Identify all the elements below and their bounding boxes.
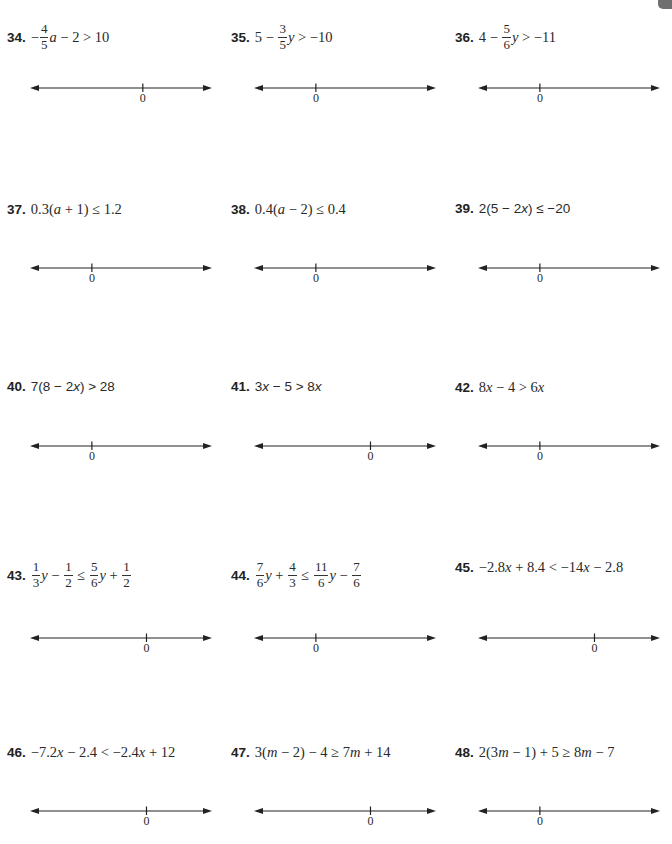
number-line-axis (478, 805, 660, 817)
left-arrow-icon (478, 443, 487, 449)
number-line[interactable]: 0 (478, 803, 660, 833)
number-line-axis (254, 440, 436, 452)
expression-text: 2(5 − 2 (479, 202, 521, 216)
problem-45: 45. −2.8x + 8.4 < −14x − 2.8 0 (448, 560, 672, 680)
problem-35: 35. 5 − 35y > −10 0 (224, 22, 448, 142)
problem-39: 39. 2(5 − 2x) ≤ −20 0 (448, 202, 672, 322)
problem-number: 42. (455, 381, 474, 395)
problem-label: 43. 13y − 12 ≤ 56y + 12 (7, 560, 132, 591)
expression-text: > −11 (518, 30, 556, 45)
inequality-expression: 8x − 4 > 6x (479, 380, 544, 395)
fraction: 56 (502, 22, 511, 53)
expression-text: + 14 (361, 745, 391, 760)
expression-text: − 2) ≤ 0.4 (285, 202, 346, 217)
number-line[interactable]: 0 (478, 630, 660, 660)
problem-48: 48. 2(3m − 1) + 5 ≥ 8m − 7 0 (448, 745, 672, 844)
variable: a (278, 202, 285, 217)
problem-36: 36. 4 − 56y > −11 0 (448, 22, 672, 142)
problem-42: 42. 8x − 4 > 6x 0 (448, 380, 672, 500)
right-arrow-icon (651, 265, 660, 271)
expression-text: 0.4( (255, 202, 278, 217)
right-arrow-icon (427, 85, 436, 91)
expression-text: + (272, 568, 287, 583)
inequality-expression: 13y − 12 ≤ 56y + 12 (31, 560, 132, 591)
left-arrow-icon (30, 443, 39, 449)
right-arrow-icon (651, 635, 660, 641)
expression-text: > −10 (294, 30, 332, 45)
left-arrow-icon (30, 265, 39, 271)
problem-number: 44. (231, 569, 250, 583)
problem-label: 35. 5 − 35y > −10 (231, 22, 333, 53)
problem-label: 39. 2(5 − 2x) ≤ −20 (455, 202, 570, 216)
number-line[interactable]: 0 (30, 803, 212, 833)
left-arrow-icon (30, 808, 39, 814)
zero-label: 0 (313, 271, 319, 286)
number-line-axis (478, 262, 660, 274)
fraction: 76 (256, 560, 265, 591)
page-corner-tab (658, 0, 672, 9)
left-arrow-icon (254, 635, 263, 641)
number-line[interactable]: 0 (478, 80, 660, 110)
problem-number: 43. (7, 569, 26, 583)
problem-number: 41. (231, 380, 250, 394)
problem-label: 48. 2(3m − 1) + 5 ≥ 8m − 7 (455, 745, 614, 760)
expression-text: 3( (255, 745, 267, 760)
problem-47: 47. 3(m − 2) − 4 ≥ 7m + 14 0 (224, 745, 448, 844)
problem-34: 34. −45a − 2 > 10 0 (0, 22, 224, 142)
left-arrow-icon (254, 265, 263, 271)
inequality-expression: 2(3m − 1) + 5 ≥ 8m − 7 (479, 745, 615, 760)
problem-label: 36. 4 − 56y > −11 (455, 22, 556, 53)
problem-label: 40. 7(8 − 2x) > 28 (7, 380, 115, 394)
variable: a (49, 30, 56, 45)
zero-label: 0 (89, 271, 95, 286)
variable: m (581, 745, 591, 760)
fraction: 56 (90, 560, 99, 591)
problem-40: 40. 7(8 − 2x) > 28 0 (0, 380, 224, 500)
problem-number: 40. (7, 380, 26, 394)
fraction: 35 (278, 22, 287, 53)
number-line[interactable]: 0 (30, 260, 212, 290)
number-line[interactable]: 0 (254, 260, 436, 290)
expression-text: ≤ (74, 568, 89, 583)
right-arrow-icon (427, 808, 436, 814)
right-arrow-icon (203, 635, 212, 641)
zero-label: 0 (367, 449, 373, 464)
fraction: 12 (122, 560, 131, 591)
number-line[interactable]: 0 (30, 630, 212, 660)
problem-number: 35. (231, 31, 250, 45)
left-arrow-icon (478, 808, 487, 814)
expression-text: 5 − (255, 30, 278, 45)
number-line[interactable]: 0 (478, 438, 660, 468)
problem-41: 41. 3x − 5 > 8x 0 (224, 380, 448, 500)
problem-label: 46. −7.2x − 2.4 < −2.4x + 12 (7, 745, 175, 760)
expression-text: + (106, 568, 121, 583)
expression-text: 2(3 (479, 745, 498, 760)
left-arrow-icon (478, 265, 487, 271)
problem-label: 34. −45a − 2 > 10 (7, 22, 109, 53)
inequality-expression: −45a − 2 > 10 (31, 22, 110, 53)
number-line-axis (30, 440, 212, 452)
expression-text: − (336, 568, 351, 583)
number-line[interactable]: 0 (254, 80, 436, 110)
expression-text: − (31, 30, 39, 45)
number-line[interactable]: 0 (254, 630, 436, 660)
number-line[interactable]: 0 (254, 803, 436, 833)
number-line[interactable]: 0 (30, 438, 212, 468)
variable: x (538, 380, 544, 395)
right-arrow-icon (203, 808, 212, 814)
expression-text: 7(8 − 2 (31, 380, 73, 394)
problem-46: 46. −7.2x − 2.4 < −2.4x + 12 0 (0, 745, 224, 844)
inequality-expression: 3x − 5 > 8x (255, 380, 322, 394)
problem-38: 38. 0.4(a − 2) ≤ 0.4 0 (224, 202, 448, 322)
problem-label: 44. 76y + 43 ≤ 116y − 76 (231, 560, 362, 591)
inequality-expression: 4 − 56y > −11 (479, 22, 556, 53)
number-line-axis (478, 82, 660, 94)
problem-label: 37. 0.3(a + 1) ≤ 1.2 (7, 202, 122, 217)
number-line-axis (30, 805, 212, 817)
problem-number: 47. (231, 746, 250, 760)
number-line[interactable]: 0 (478, 260, 660, 290)
number-line[interactable]: 0 (30, 80, 212, 110)
right-arrow-icon (651, 443, 660, 449)
number-line[interactable]: 0 (254, 438, 436, 468)
expression-text: − 2 > 10 (57, 30, 110, 45)
